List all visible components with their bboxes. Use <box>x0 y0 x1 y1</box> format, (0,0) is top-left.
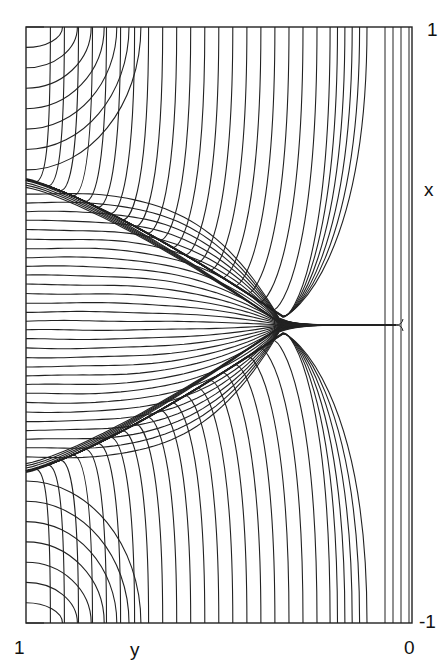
x-axis-title: x <box>424 180 434 199</box>
y-axis-max-label: 1 <box>14 638 25 657</box>
x-axis-min-label: -1 <box>419 612 436 631</box>
x-axis-max-label: 1 <box>427 20 438 39</box>
cusp-trajectory-plot <box>0 0 444 669</box>
y-axis-title: y <box>130 640 140 659</box>
y-axis-min-label: 0 <box>404 638 415 657</box>
trajectory-curves <box>26 27 409 623</box>
